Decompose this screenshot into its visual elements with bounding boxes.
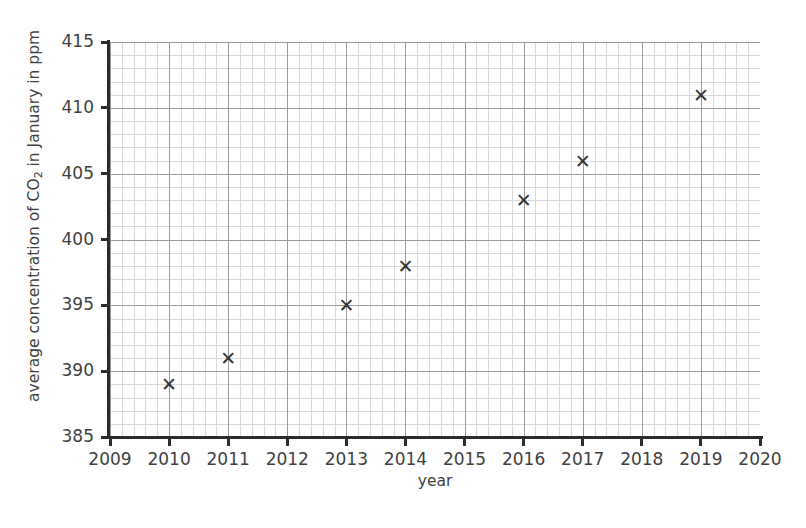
x-axis-tick <box>522 437 525 446</box>
x-axis-tick <box>345 437 348 446</box>
y-axis-tick-label: 400 <box>38 229 94 249</box>
y-axis-tick-label: 415 <box>38 31 94 51</box>
data-point-marker: ✕ <box>397 256 413 275</box>
x-axis-tick <box>463 437 466 446</box>
y-axis-tick <box>101 238 110 241</box>
x-axis-tick-label: 2010 <box>139 449 199 469</box>
x-axis-tick <box>699 437 702 446</box>
x-axis-tick-label: 2017 <box>553 449 613 469</box>
x-axis-tick-label: 2013 <box>316 449 376 469</box>
x-axis-spine <box>107 436 763 439</box>
x-axis-tick <box>759 437 762 446</box>
x-axis-tick <box>109 437 112 446</box>
data-point-marker: ✕ <box>693 85 709 104</box>
y-axis-tick-label: 385 <box>38 426 94 446</box>
y-axis-tick <box>101 172 110 175</box>
x-axis-tick <box>168 437 171 446</box>
y-axis-tick <box>101 41 110 44</box>
x-axis-tick-label: 2016 <box>494 449 554 469</box>
x-axis-tick <box>227 437 230 446</box>
x-axis-tick <box>581 437 584 446</box>
x-axis-tick-label: 2009 <box>80 449 140 469</box>
x-axis-tick-label: 2019 <box>671 449 731 469</box>
plot-area <box>110 42 760 437</box>
data-point-marker: ✕ <box>516 191 532 210</box>
x-axis-tick-label: 2018 <box>612 449 672 469</box>
x-axis-tick-label: 2014 <box>375 449 435 469</box>
y-axis-tick-label: 390 <box>38 360 94 380</box>
y-axis-tick <box>101 304 110 307</box>
x-axis-tick <box>286 437 289 446</box>
chart-figure: average concentration of CO2 in January … <box>0 0 806 528</box>
data-point-marker: ✕ <box>161 375 177 394</box>
data-point-marker: ✕ <box>220 349 236 368</box>
x-axis-tick-label: 2015 <box>435 449 495 469</box>
data-point-marker: ✕ <box>338 296 354 315</box>
x-axis-tick-label: 2020 <box>730 449 790 469</box>
y-axis-tick-label: 405 <box>38 163 94 183</box>
y-axis-tick <box>101 106 110 109</box>
x-axis-label: year <box>110 472 760 490</box>
x-axis-tick-label: 2011 <box>198 449 258 469</box>
data-point-marker: ✕ <box>575 151 591 170</box>
x-axis-tick <box>404 437 407 446</box>
x-axis-tick-label: 2012 <box>257 449 317 469</box>
y-axis-tick-label: 395 <box>38 294 94 314</box>
x-axis-tick <box>640 437 643 446</box>
y-axis-tick-label: 410 <box>38 97 94 117</box>
y-axis-tick <box>101 370 110 373</box>
grid-lines <box>110 42 760 437</box>
